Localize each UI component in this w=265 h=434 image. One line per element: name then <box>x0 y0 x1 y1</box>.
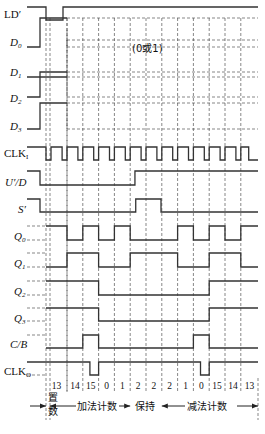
state-label: 0 <box>104 381 109 391</box>
label-clki: CLKI <box>4 147 29 161</box>
waveform-clko <box>27 362 258 375</box>
arrowhead <box>252 404 258 409</box>
waveform-d2 <box>27 72 67 97</box>
arrowhead <box>124 404 130 409</box>
waveform-d0 <box>27 18 67 47</box>
phase-count-down: 减法计数 <box>187 400 227 412</box>
label-s: S′ <box>18 203 27 215</box>
label-q0: Q0 <box>14 230 26 244</box>
waveforms <box>27 7 258 375</box>
phase-labels: 置 数 加法计数 保持 减法计数 <box>48 392 227 417</box>
signal-labels: LD′ D0 D1 D2 D3 CLKI U′/D S′ Q0 Q1 Q2 Q3… <box>4 8 31 379</box>
state-label: 14 <box>70 381 80 391</box>
time-gridlines <box>27 18 258 420</box>
state-label: 0 <box>199 381 204 391</box>
phase-load-line1: 置 <box>48 392 58 403</box>
dont-care-note: (0或1) <box>132 43 163 54</box>
state-label: 2 <box>167 381 172 391</box>
waveform-d3 <box>27 103 67 129</box>
state-label: 13 <box>245 381 255 391</box>
phase-hold: 保持 <box>135 400 155 412</box>
label-q1: Q1 <box>14 257 25 271</box>
label-q2: Q2 <box>14 285 26 299</box>
waveform-clki <box>27 147 258 160</box>
label-q3: Q3 <box>14 312 26 326</box>
phase-count-up: 加法计数 <box>77 400 117 412</box>
timing-diagram: LD′ D0 D1 D2 D3 CLKI U′/D S′ Q0 Q1 Q2 Q3… <box>0 0 265 434</box>
state-label: 15 <box>86 381 96 391</box>
waveform-q1 <box>46 253 258 267</box>
waveform-ud <box>27 171 258 185</box>
label-ud: U′/D <box>5 176 26 188</box>
arrowhead <box>162 404 168 409</box>
arrowhead <box>40 404 46 409</box>
label-d0: D0 <box>9 36 22 50</box>
state-label: 13 <box>52 381 62 391</box>
label-d3: D3 <box>9 120 22 134</box>
waveform-q3 <box>46 308 258 321</box>
label-d1: D1 <box>9 66 21 80</box>
state-label: 14 <box>228 381 238 391</box>
waveform-q2 <box>46 281 258 295</box>
state-label: 1 <box>120 381 125 391</box>
state-label: 1 <box>183 381 188 391</box>
waveform-s <box>27 199 258 212</box>
state-label: 2 <box>136 381 141 391</box>
waveform-q0 <box>46 226 258 240</box>
label-d2: D2 <box>9 92 22 106</box>
label-ld: LD′ <box>4 8 21 20</box>
label-cb: C/B <box>10 338 27 350</box>
state-labels: 1314150122210151413 <box>52 381 255 391</box>
state-label: 2 <box>152 381 157 391</box>
waveform-cb <box>46 335 258 348</box>
label-clko: CLKO <box>4 365 31 379</box>
state-label: 15 <box>212 381 222 391</box>
